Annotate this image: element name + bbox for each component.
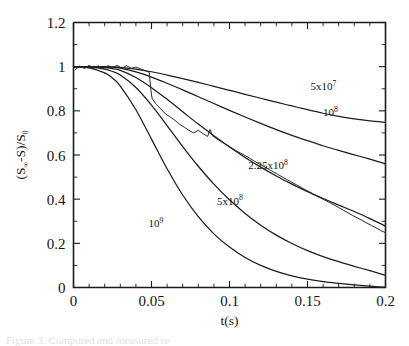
x-axis-title: t(s): [221, 313, 239, 328]
x-tick-label: 0.2: [376, 293, 395, 309]
caption-ghost-text: Figure 3. Computed and measured re: [6, 334, 169, 346]
x-tick-label: 0.15: [294, 293, 320, 309]
y-tick-label: 0: [58, 280, 66, 296]
y-tick-label: 1: [58, 59, 66, 75]
y-tick-label: 0.6: [47, 148, 66, 164]
y-tick-label: 0.8: [47, 103, 66, 119]
y-tick-label: 0.4: [47, 192, 66, 208]
figure-container: 00.050.10.150.2 00.20.40.60.811.2 5x1071…: [0, 0, 409, 346]
caption-strip: Figure 3. Computed and measured re: [0, 332, 409, 346]
y-tick-label: 0.2: [47, 236, 66, 252]
y-tick-label: 1.2: [47, 15, 66, 31]
x-tick-label: 0: [70, 293, 78, 309]
relaxation-decay-chart: 00.050.10.150.2 00.20.40.60.811.2 5x1071…: [0, 0, 409, 346]
y-axis-title: (S∞-S)/S0: [13, 130, 30, 179]
curve-label: 2.25x108: [248, 158, 288, 171]
x-tick-label: 0.1: [220, 293, 239, 309]
x-tick-label: 0.05: [138, 293, 164, 309]
